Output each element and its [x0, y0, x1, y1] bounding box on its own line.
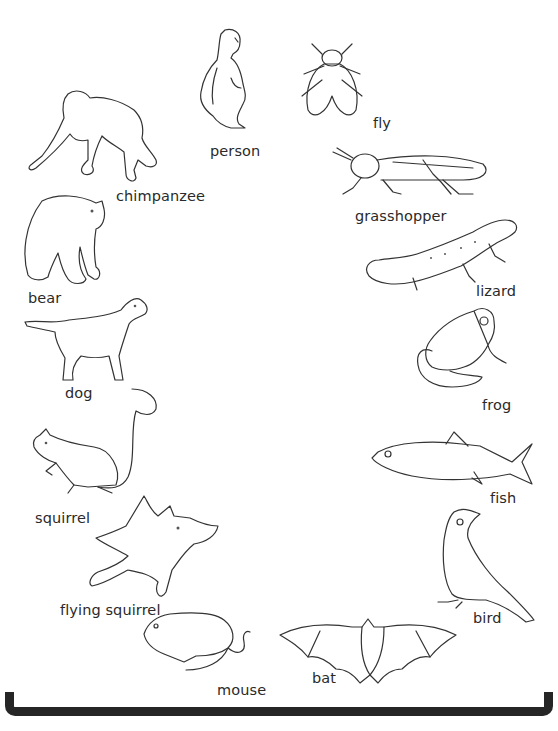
- lizard-illustration: [365, 218, 519, 290]
- bird-illustration: [438, 508, 538, 626]
- label-bird: bird: [473, 610, 502, 626]
- label-fly: fly: [373, 115, 391, 131]
- label-lizard: lizard: [476, 283, 516, 299]
- label-bat: bat: [312, 670, 336, 686]
- fly-illustration: [302, 40, 362, 120]
- person-illustration: [195, 28, 250, 133]
- label-person: person: [210, 143, 260, 159]
- dog-illustration: [25, 296, 149, 382]
- label-frog: frog: [482, 397, 511, 413]
- label-squirrel: squirrel: [35, 510, 90, 526]
- fish-illustration: [372, 432, 534, 490]
- grasshopper-illustration: [333, 146, 491, 198]
- squirrel-illustration: [32, 389, 160, 495]
- mouse-illustration: [142, 612, 252, 674]
- bat-illustration: [280, 617, 456, 685]
- label-fish: fish: [490, 490, 516, 506]
- frog-illustration: [410, 305, 510, 391]
- chimpanzee-illustration: [28, 88, 158, 186]
- grouping-bracket: [5, 692, 553, 716]
- bear-illustration: [24, 195, 106, 285]
- label-chimpanzee: chimpanzee: [116, 188, 205, 204]
- flying-squirrel-illustration: [88, 492, 222, 604]
